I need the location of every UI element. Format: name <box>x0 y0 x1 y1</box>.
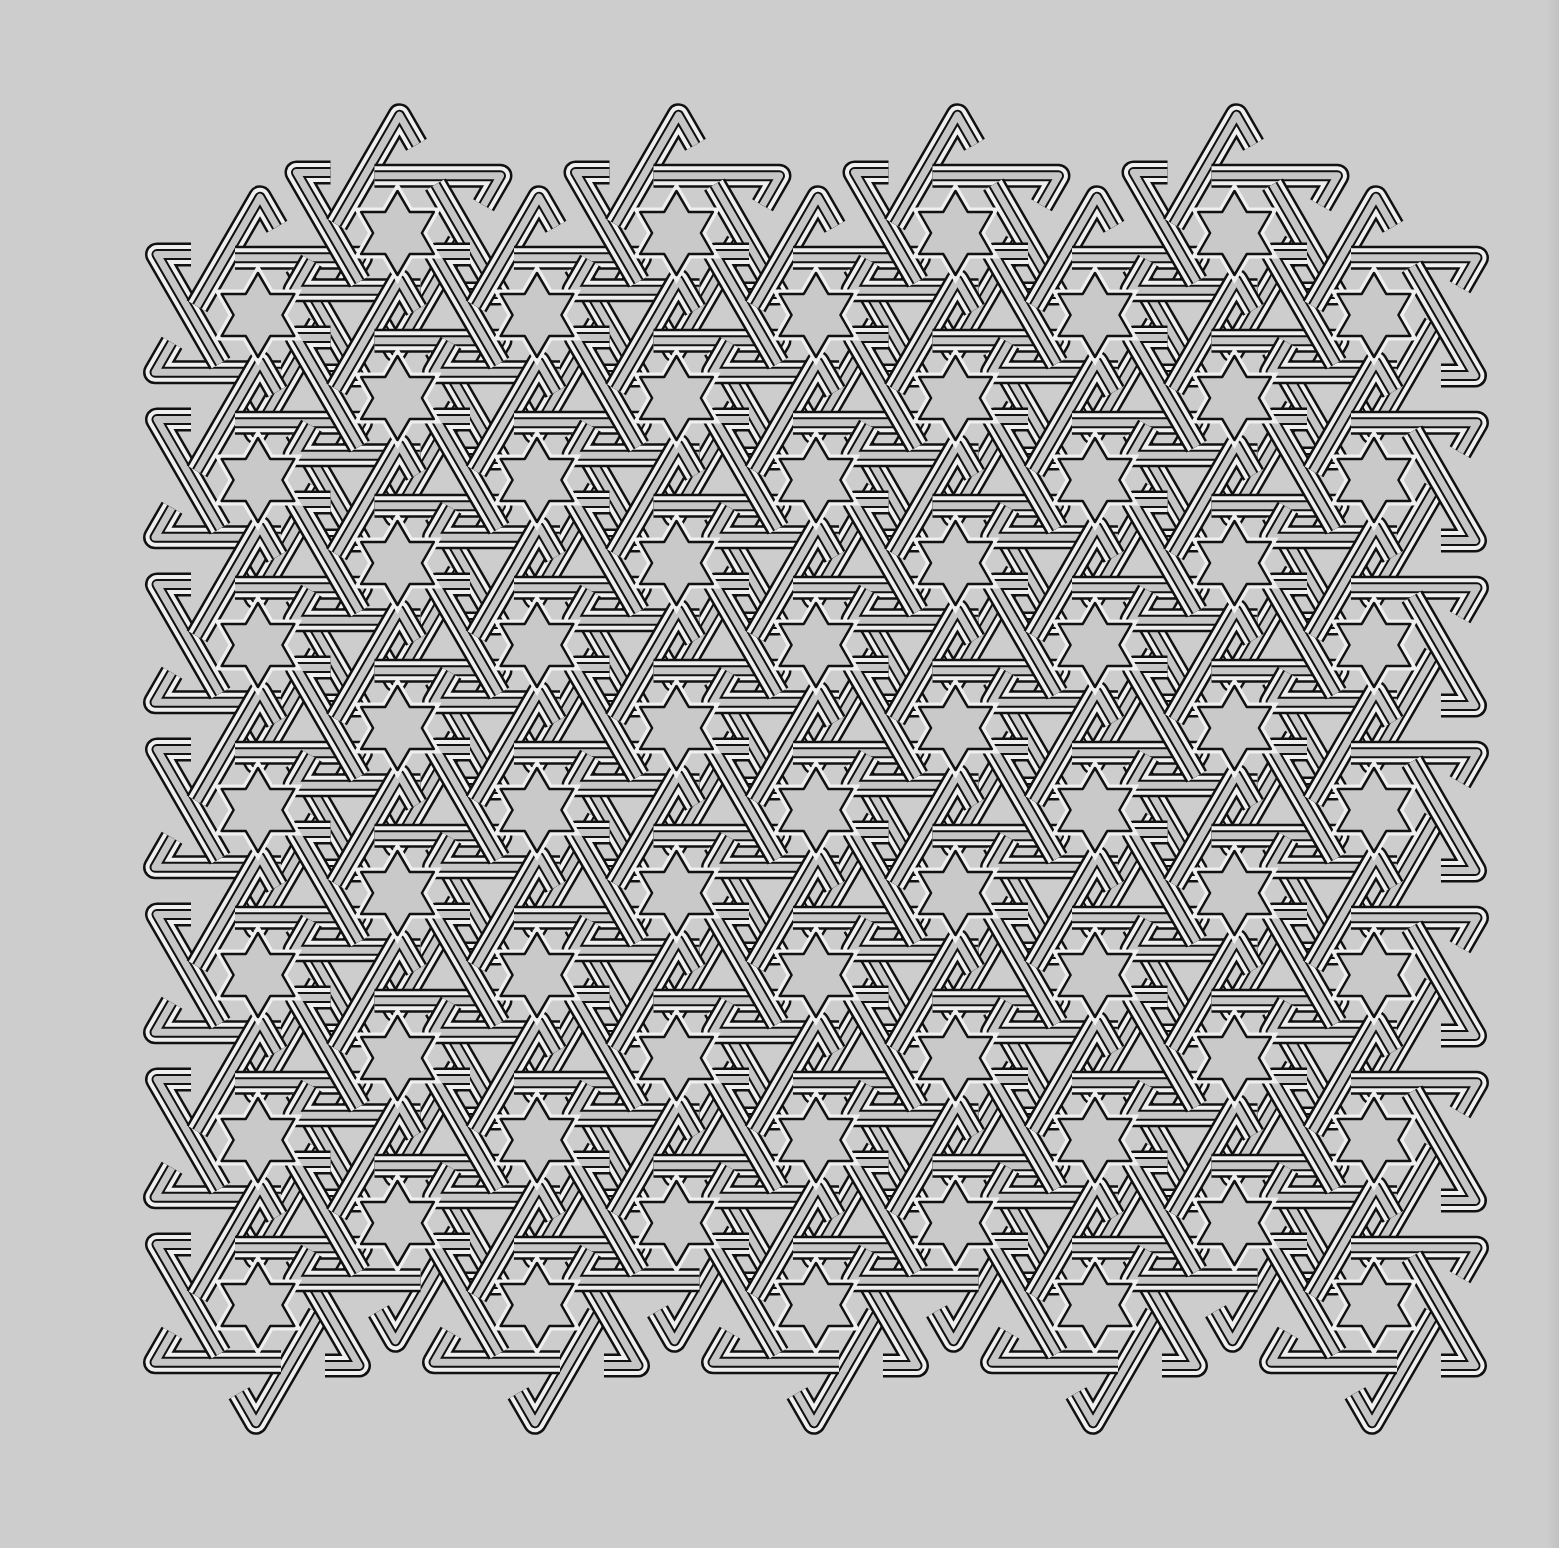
pattern-canvas <box>0 0 1559 1548</box>
page-edge-shadow <box>1547 0 1559 1548</box>
labyrinth-pattern <box>0 0 1559 1548</box>
star-shapes <box>214 182 1418 1356</box>
